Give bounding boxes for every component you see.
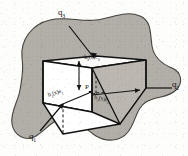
axis-label-q3: q3 [58, 8, 65, 20]
point-P-marker [89, 91, 92, 94]
point-label-P: P [85, 84, 89, 91]
axis-label-q3-sub: 3 [62, 13, 65, 19]
figure-canvas: q3 q2 q1 h3(x)e3 h1(x)e1 h2(x)e2 P [0, 0, 188, 156]
axis-label-q2-sub: 2 [176, 85, 179, 91]
edge-label-h3-rest-sub: 3 [98, 58, 100, 62]
axis-label-q1-sub: 1 [33, 137, 36, 143]
edge-label-h3-e3: h3(x)e3 [84, 53, 99, 63]
axis-label-q2: q2 [172, 80, 179, 92]
axis-label-q1: q1 [29, 132, 36, 144]
